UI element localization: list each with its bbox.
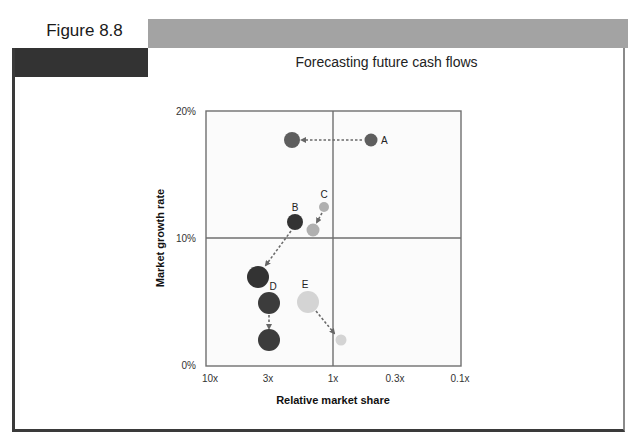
y-tick-label: 0% — [182, 360, 197, 371]
bubble-d-from — [258, 292, 280, 314]
bubble-label-a: A — [381, 135, 388, 146]
y-tick-label: 20% — [176, 106, 196, 117]
y-axis-title: Market growth rate — [154, 189, 166, 287]
bubble-chart: 20% 10% 0% 10x 3x 1x 0.3x 0.1x Relative … — [0, 0, 635, 447]
x-tick-label: 3x — [263, 373, 274, 384]
y-tick-label: 10% — [176, 233, 196, 244]
bubble-b-from — [287, 214, 303, 230]
bubble-label-e: E — [302, 279, 309, 290]
bubble-label-b: B — [292, 202, 299, 213]
bubble-e-from — [297, 291, 319, 313]
bubble-a-from — [365, 134, 378, 147]
bubble-c-to — [307, 224, 320, 237]
bubble-d-to — [258, 329, 280, 351]
bubble-b-to — [247, 266, 269, 288]
x-axis-title: Relative market share — [276, 394, 390, 406]
bubble-a-to — [284, 132, 300, 148]
x-tick-label: 0.1x — [451, 373, 470, 384]
x-tick-label: 10x — [202, 373, 218, 384]
bubble-label-d: D — [269, 281, 276, 292]
bubble-c-from — [319, 202, 329, 212]
x-tick-label: 0.3x — [386, 373, 405, 384]
bubble-e-to — [336, 335, 347, 346]
bubble-label-c: C — [320, 189, 327, 200]
x-tick-label: 1x — [328, 373, 339, 384]
